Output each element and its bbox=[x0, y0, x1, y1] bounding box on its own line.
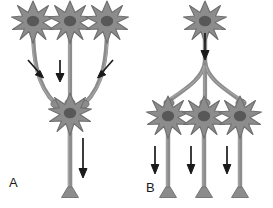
arrow-b-output-3 bbox=[223, 146, 231, 174]
neuron-a-input-3 bbox=[86, 1, 129, 44]
neuron-a-input-2 bbox=[49, 1, 92, 44]
neuron-b-output-1 bbox=[147, 96, 190, 139]
panel-a: A bbox=[9, 1, 129, 198]
neuron-b-output-2 bbox=[183, 96, 226, 139]
arrow-b-output-1 bbox=[151, 146, 159, 174]
panel-b-label: B bbox=[146, 180, 155, 195]
panel-b-endfeet bbox=[160, 187, 249, 198]
panel-a-label: A bbox=[9, 175, 18, 190]
panel-a-output-endfoot bbox=[62, 187, 79, 198]
axon-b-left bbox=[170, 62, 205, 100]
neuron-diagram: A bbox=[0, 0, 273, 208]
panel-b-diverging-axons bbox=[170, 62, 240, 100]
arrow-a-output bbox=[79, 138, 87, 178]
neuron-a-output bbox=[49, 93, 92, 136]
neuron-a-input-1 bbox=[12, 1, 55, 44]
arrow-b-output-2 bbox=[187, 146, 195, 174]
panel-b: B bbox=[146, 1, 262, 198]
arrow-b-input bbox=[201, 33, 209, 60]
arrow-a-middle bbox=[56, 60, 64, 82]
axon-b-right bbox=[205, 62, 240, 100]
neuron-b-output-3 bbox=[219, 96, 262, 139]
